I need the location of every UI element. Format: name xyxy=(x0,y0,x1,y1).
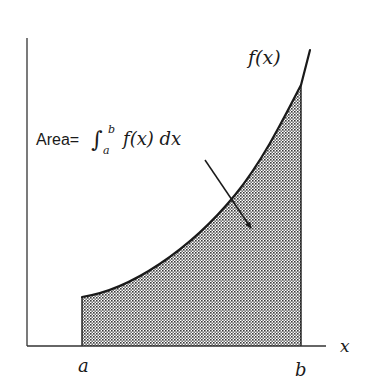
area-prefix: Area= xyxy=(36,131,79,148)
x-axis-label: x xyxy=(340,336,350,356)
integral-sign: ∫ xyxy=(91,127,103,152)
integral-lower-limit: a xyxy=(103,144,110,157)
integral-area-diagram: f(x) x a b Area= ∫ b a f(x) dx xyxy=(0,0,375,385)
upper-bound-label: b xyxy=(295,359,307,380)
curve-label: f(x) xyxy=(246,46,281,68)
integrand: f(x) dx xyxy=(121,128,181,149)
lower-bound-label: a xyxy=(78,355,89,376)
area-annotation: Area= ∫ b a f(x) dx xyxy=(36,123,181,157)
integral-upper-limit: b xyxy=(108,123,115,136)
